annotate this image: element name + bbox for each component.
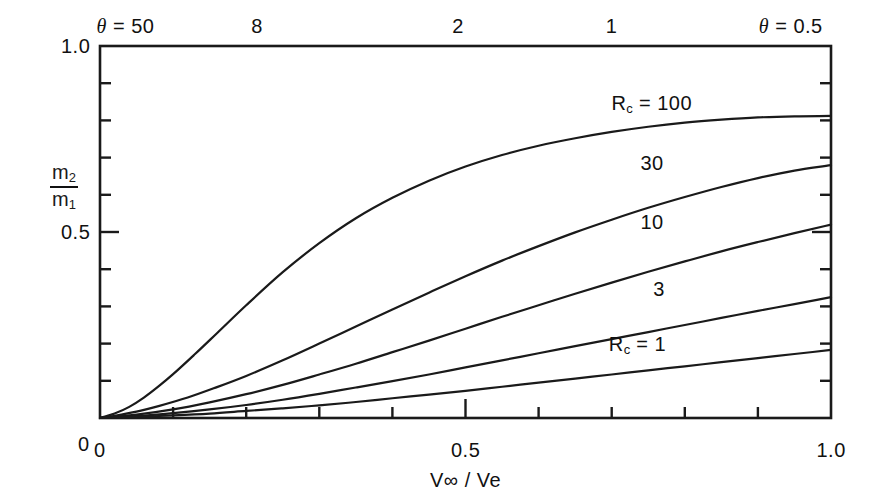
top-axis-theta-label-3: 1	[606, 15, 618, 38]
y-tick-label-0: 0	[78, 433, 90, 456]
y-axis-title-denominator-subscript: 1	[69, 198, 76, 213]
top-axis-theta-label-4: θ = 0.5	[759, 15, 823, 38]
top-axis-theta-label-1: 8	[251, 15, 263, 38]
y-tick-label-1: 1.0	[61, 35, 90, 58]
y-axis-title-denominator: m1	[50, 188, 78, 212]
data-curves	[100, 116, 831, 418]
curve-1	[100, 165, 831, 418]
y-axis-title-numerator-text: m	[52, 161, 69, 183]
y-axis-title: m2 m1	[50, 162, 78, 212]
y-axis-title-numerator-subscript: 2	[69, 171, 76, 186]
chart-plot	[0, 0, 878, 495]
figure-container: 1.0 0.5 0 m2 m1 0 0.5 1.0 V∞ / Ve θ = 50…	[0, 0, 878, 495]
x-axis-title: V∞ / Ve	[430, 469, 501, 492]
top-axis-theta-label-0: θ = 50	[97, 15, 155, 38]
x-tick-label-1: 1.0	[817, 439, 846, 462]
curve-label-4: Rc = 1	[609, 333, 666, 357]
curve-label-0: Rc = 100	[611, 92, 692, 116]
y-axis-title-denominator-text: m	[52, 188, 69, 210]
curve-label-1: 30	[640, 152, 663, 175]
curve-label-3: 3	[653, 278, 665, 301]
y-tick-label-05: 0.5	[61, 221, 90, 244]
curve-label-2: 10	[640, 211, 663, 234]
curve-0	[100, 116, 831, 418]
y-axis-title-numerator: m2	[50, 162, 78, 188]
x-tick-label-05: 0.5	[451, 439, 480, 462]
top-axis-theta-label-2: 2	[452, 15, 464, 38]
x-tick-label-0: 0	[94, 439, 106, 462]
